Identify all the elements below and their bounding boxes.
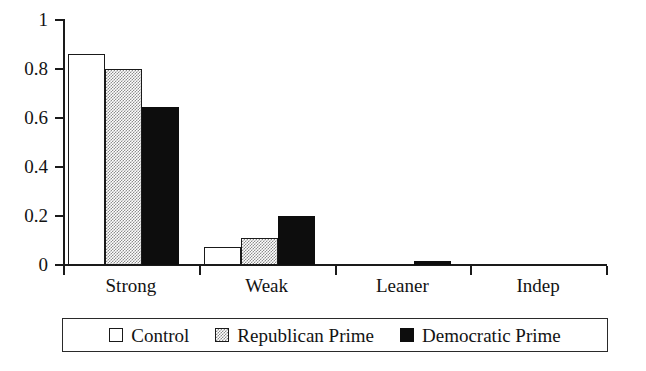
x-axis-label-weak: Weak xyxy=(199,275,335,297)
plot-area xyxy=(63,20,606,265)
x-axis-tick xyxy=(335,266,337,275)
bar-control-strong xyxy=(68,54,105,265)
legend-item-control[interactable]: Control xyxy=(109,326,189,345)
legend-swatch-icon xyxy=(400,328,414,342)
bar-democratic-prime-strong xyxy=(142,107,179,265)
legend-item-democratic-prime[interactable]: Democratic Prime xyxy=(400,326,561,345)
y-axis-tick-label: 0.8 xyxy=(24,59,48,78)
y-axis-tick-label: 0.4 xyxy=(24,157,48,176)
bar-democratic-prime-weak xyxy=(278,216,315,265)
legend-label: Control xyxy=(131,326,189,345)
y-axis-tick-label: 0 xyxy=(39,255,49,274)
y-axis-tick-label: 0.2 xyxy=(24,206,48,225)
bar-democratic-prime-leaner xyxy=(414,261,451,265)
legend-item-republican-prime[interactable]: Republican Prime xyxy=(215,326,374,345)
legend-swatch-icon xyxy=(215,328,229,342)
x-axis-label-strong: Strong xyxy=(63,275,199,297)
bar-republican-prime-weak xyxy=(241,238,278,265)
legend-label: Republican Prime xyxy=(237,326,374,345)
bar-republican-prime-strong xyxy=(105,69,142,265)
y-axis-tick-label: 0.6 xyxy=(24,108,48,127)
bar-control-weak xyxy=(204,247,241,265)
x-axis-label-leaner: Leaner xyxy=(335,275,471,297)
chart-legend: ControlRepublican PrimeDemocratic Prime xyxy=(62,318,608,352)
x-axis-label-indep: Indep xyxy=(470,275,606,297)
x-axis-tick xyxy=(63,266,65,275)
legend-swatch-icon xyxy=(109,328,123,342)
y-axis-tick-label: 1 xyxy=(39,10,49,29)
x-axis-tick xyxy=(199,266,201,275)
legend-label: Democratic Prime xyxy=(422,326,561,345)
x-axis-tick xyxy=(606,266,608,275)
x-axis-tick xyxy=(470,266,472,275)
bar-chart: 00.20.40.60.81 StrongWeakLeanerIndep Con… xyxy=(0,0,646,371)
